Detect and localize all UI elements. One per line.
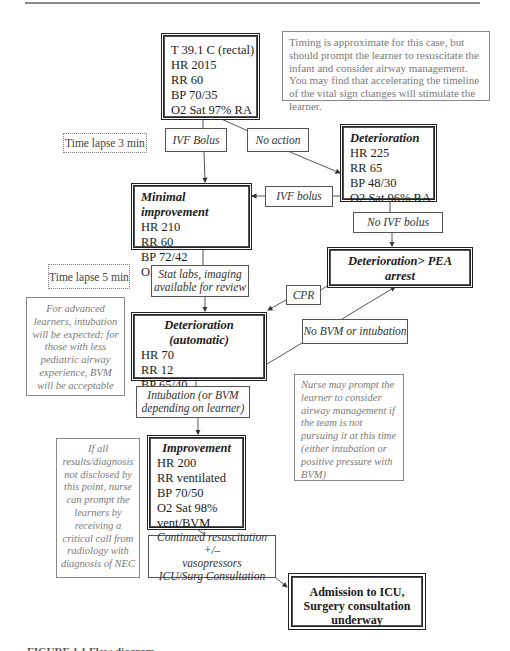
action-ivf-bolus-2: IVF bolus [265,186,333,207]
minimal-improvement-rr: RR 60 [141,235,242,250]
time-lapse-5-label: Time lapse 5 min [49,271,129,283]
vital-hr: HR 2015 [171,58,250,73]
figure-caption: FIGURE 1.1 Flow diagram [27,646,155,651]
action-intubation: Intubation (or BVM depending on learner) [136,386,250,418]
time-lapse-5-min: Time lapse 5 min [48,264,130,289]
vital-bp: BP 70/35 [171,88,250,103]
minimal-improvement-title: Minimal improvement [141,190,242,220]
action-continued-line2: vasopressors [182,557,242,570]
action-no-bvm-label: No BVM or intubation [303,325,406,338]
action-stat-labs-line1: Stat labs, imaging [158,268,241,281]
top-rule [25,2,480,4]
action-continued-line1: Continued resuscitation +/– [149,531,275,557]
action-no-ivf-bolus: No IVF bolus [353,212,443,233]
action-ivf-bolus-2-label: IVF bolus [276,190,322,203]
deterioration-rr: RR 65 [350,161,427,176]
improvement-o2: O2 Sat 98% [157,501,236,516]
action-stat-labs: Stat labs, imaging available for review [151,265,249,297]
action-cpr-label: CPR [293,289,315,302]
time-lapse-3-min: Time lapse 3 min [63,133,147,153]
improvement-title: Improvement [157,441,236,456]
action-no-action: No action [247,128,309,152]
action-no-bvm: No BVM or intubation [302,319,408,344]
deterioration-automatic-title: Deterioration (automatic) [141,318,257,348]
advanced-learners-note: For advanced learners, intubation will b… [26,297,125,396]
minimal-improvement-hr: HR 210 [141,220,242,235]
nurse-prompt-note-text: Nurse may prompt the learner to consider… [301,379,396,480]
advanced-learners-note-text: For advanced learners, intubation will b… [32,303,118,391]
timing-note-text: Timing is approximate for this case, but… [289,36,479,112]
pea-arrest-box: Deterioration> PEA arrest [327,247,473,288]
improvement-hr: HR 200 [157,456,236,471]
deterioration-title: Deterioration [350,131,427,146]
improvement-rr: RR ventilated [157,471,236,486]
time-lapse-3-label: Time lapse 3 min [65,137,145,149]
action-no-action-label: No action [255,134,300,147]
results-diagnosis-note: If all results/diagnosis not disclosed b… [56,438,140,578]
deterioration-automatic-hr: HR 70 [141,348,257,363]
timing-note: Timing is approximate for this case, but… [282,31,490,101]
improvement-bp: BP 70/50 [157,486,236,501]
deterioration-box: Deterioration HR 225 RR 65 BP 48/30 O2 S… [340,124,437,202]
minimal-improvement-bp: BP 72/42 [141,250,242,265]
improvement-vent: vent/BVM [157,516,236,531]
action-continued-line3: ICU/Surg Consultation [159,570,266,583]
improvement-box: Improvement HR 200 RR ventilated BP 70/5… [147,435,246,530]
nurse-prompt-note: Nurse may prompt the learner to consider… [294,374,404,481]
deterioration-hr: HR 225 [350,146,427,161]
action-stat-labs-line2: available for review [154,281,246,294]
admission-final-box: Admission to ICU, Surgery consultation u… [288,573,426,630]
minimal-improvement-box: Minimal improvement HR 210 RR 60 BP 72/4… [131,183,252,250]
action-intubation-line1: Intubation (or BVM [147,389,238,402]
action-continued-resuscitation: Continued resuscitation +/– vasopressors… [148,535,276,578]
vital-rr: RR 60 [171,73,250,88]
initial-state-box: T 39.1 C (rectal) HR 2015 RR 60 BP 70/35… [161,33,260,120]
action-no-ivf-bolus-label: No IVF bolus [367,216,429,229]
action-cpr: CPR [286,285,321,305]
deterioration-o2: O2 Sat 96% RA [350,191,427,206]
deterioration-bp: BP 48/30 [350,176,427,191]
action-intubation-line2: depending on learner) [142,402,245,415]
deterioration-automatic-rr: RR 12 [141,363,257,378]
action-ivf-bolus-1-label: IVF Bolus [173,134,220,147]
pea-arrest-title: Deterioration> PEA arrest [337,254,463,284]
results-diagnosis-note-text: If all results/diagnosis not disclosed b… [61,443,135,569]
admission-final-text: Admission to ICU, Surgery consultation u… [303,585,410,627]
vital-temp: T 39.1 C (rectal) [171,43,250,58]
deterioration-automatic-box: Deterioration (automatic) HR 70 RR 12 BP… [131,312,267,381]
vital-o2: O2 Sat 97% RA [171,103,250,118]
action-ivf-bolus-1: IVF Bolus [165,128,227,152]
